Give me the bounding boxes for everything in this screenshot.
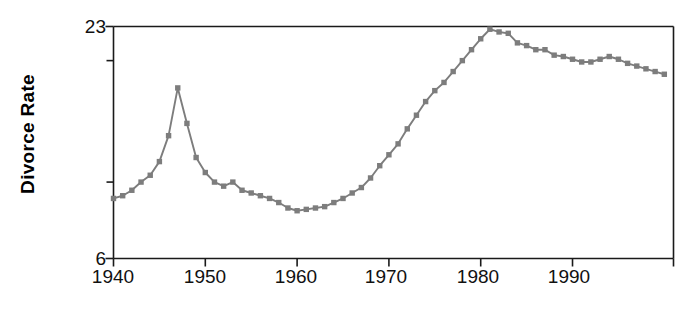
data-point-marker — [166, 133, 171, 138]
data-point-marker — [120, 193, 125, 198]
data-point-marker — [322, 204, 327, 209]
data-point-marker — [184, 121, 189, 126]
data-point-marker — [377, 163, 382, 168]
data-point-marker — [662, 72, 667, 77]
data-point-marker — [579, 59, 584, 64]
data-point-marker — [634, 63, 639, 68]
data-point-marker — [148, 173, 153, 178]
data-point-marker — [111, 196, 116, 201]
data-point-marker — [496, 29, 501, 34]
data-point-marker — [230, 179, 235, 184]
data-point-marker — [652, 69, 657, 74]
data-point-marker — [551, 52, 556, 57]
data-point-marker — [212, 179, 217, 184]
data-point-marker — [203, 170, 208, 175]
data-point-marker — [597, 57, 602, 62]
data-point-marker — [450, 69, 455, 74]
data-point-marker — [524, 43, 529, 48]
data-point-marker — [395, 141, 400, 146]
data-point-marker — [294, 208, 299, 213]
data-markers — [111, 27, 667, 214]
data-point-marker — [607, 54, 612, 59]
data-point-marker — [221, 183, 226, 188]
data-point-marker — [423, 99, 428, 104]
data-point-marker — [561, 54, 566, 59]
data-point-marker — [643, 66, 648, 71]
data-point-marker — [276, 200, 281, 205]
data-point-marker — [239, 188, 244, 193]
data-point-marker — [414, 113, 419, 118]
data-point-marker — [349, 190, 354, 195]
data-point-marker — [129, 188, 134, 193]
data-point-marker — [533, 47, 538, 52]
data-point-marker — [515, 40, 520, 45]
plot-area — [0, 0, 692, 312]
data-point-marker — [331, 200, 336, 205]
data-point-marker — [368, 175, 373, 180]
data-point-marker — [432, 88, 437, 93]
data-point-marker — [506, 31, 511, 36]
data-point-marker — [285, 205, 290, 210]
data-point-marker — [267, 196, 272, 201]
divorce-rate-chart: Divorce Rate 23 6 1940 1950 1960 1970 19… — [0, 0, 692, 312]
data-point-marker — [340, 196, 345, 201]
data-point-marker — [258, 193, 263, 198]
data-line — [114, 29, 665, 211]
divorce-rate-series-line — [114, 29, 665, 211]
data-point-marker — [304, 207, 309, 212]
data-point-marker — [441, 80, 446, 85]
data-point-marker — [469, 47, 474, 52]
data-point-marker — [138, 179, 143, 184]
data-point-marker — [487, 27, 492, 32]
data-point-marker — [359, 185, 364, 190]
data-point-marker — [616, 57, 621, 62]
data-point-marker — [386, 152, 391, 157]
data-point-marker — [460, 58, 465, 63]
data-point-marker — [249, 190, 254, 195]
data-point-marker — [570, 57, 575, 62]
data-point-marker — [478, 36, 483, 41]
data-point-marker — [625, 61, 630, 66]
data-point-marker — [193, 155, 198, 160]
data-point-marker — [542, 47, 547, 52]
data-point-marker — [175, 85, 180, 90]
data-point-marker — [313, 205, 318, 210]
data-point-marker — [588, 59, 593, 64]
data-point-marker — [157, 159, 162, 164]
data-point-marker — [405, 126, 410, 131]
